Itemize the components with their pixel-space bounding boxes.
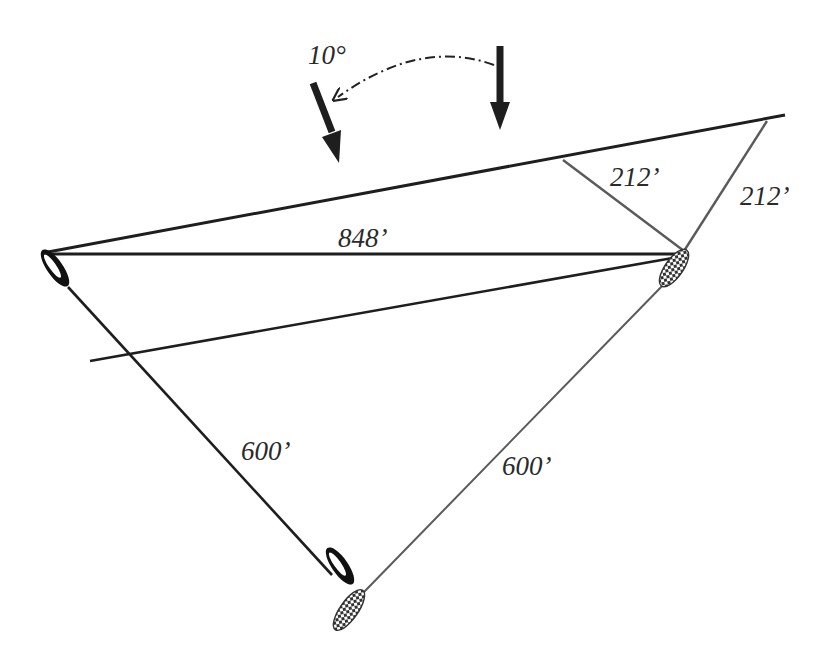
- left-leg-600: [68, 287, 332, 575]
- solid-boat-bottom-icon: [321, 543, 359, 588]
- checkered-boat-top-icon: [654, 245, 694, 291]
- lower-layline: [90, 256, 684, 361]
- baseline-label: 848’: [338, 223, 388, 253]
- wind-shift-arc: [338, 57, 494, 97]
- perpendicular-label: 212’: [610, 162, 660, 192]
- checkered-boat-bottom-icon: [328, 585, 370, 635]
- right-leg-label: 600’: [502, 451, 552, 481]
- leg-label: 212’: [740, 181, 790, 211]
- left-leg-label: 600’: [241, 436, 291, 466]
- new-wind-arrow-icon: [313, 83, 341, 163]
- upper-layline: [48, 115, 785, 252]
- sailing-geometry-diagram: 10° 848’ 212’ 212’ 600’ 600’: [0, 0, 831, 663]
- old-wind-arrow-icon: [490, 46, 510, 130]
- right-leg-600: [364, 282, 666, 592]
- wind-shift-label: 10°: [308, 40, 346, 70]
